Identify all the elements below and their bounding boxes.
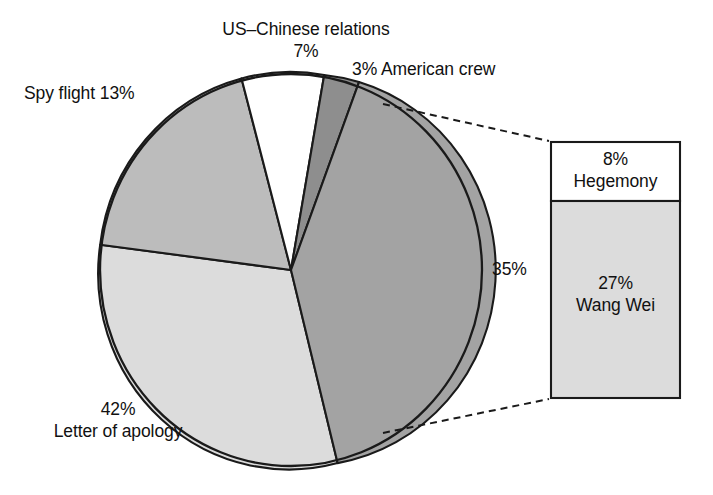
pie-label-share-35-percent: 35% xyxy=(492,258,527,280)
pie-label-letter-of-apology: 42% Letter of apology xyxy=(8,398,228,443)
pie-label-relations-title: US–Chinese relations xyxy=(186,18,426,40)
callout-label-hegemony: 8% Hegemony xyxy=(551,148,680,193)
callout-label-wang-wei: 27% Wang Wei xyxy=(551,272,680,317)
pie-label-apology-percent: 42% xyxy=(8,398,228,420)
pie-chart-figure: US–Chinese relations 7% 3% American crew… xyxy=(0,0,713,495)
callout-wangwei-percent: 27% xyxy=(551,272,680,294)
pie-label-apology-title: Letter of apology xyxy=(8,420,228,442)
pie-label-spy-flight: Spy flight 13% xyxy=(24,82,134,104)
callout-wangwei-name: Wang Wei xyxy=(551,294,680,316)
pie-label-us-chinese-relations: US–Chinese relations 7% xyxy=(186,18,426,63)
pie-label-american-crew: 3% American crew xyxy=(352,58,495,80)
callout-hegemony-name: Hegemony xyxy=(551,170,680,192)
callout-hegemony-percent: 8% xyxy=(551,148,680,170)
